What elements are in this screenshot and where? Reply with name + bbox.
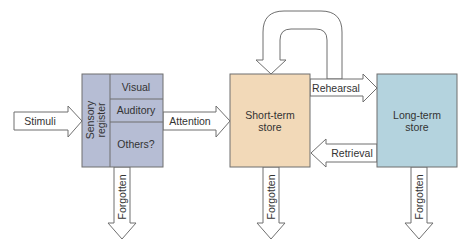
- retrieval-label: Retrieval: [331, 147, 372, 159]
- attention-label: Attention: [169, 115, 211, 127]
- rehearsal-arrow: Rehearsal: [310, 74, 377, 102]
- short-term-label-1: Short-term: [245, 109, 295, 121]
- memory-model-diagram: Stimuli Attention Rehearsal Retrieval Fo…: [0, 0, 473, 252]
- forgotten-arrow-sensory: Forgotten: [108, 167, 136, 239]
- short-term-label-2: store: [258, 121, 282, 133]
- sensory-register-box: Sensory register Visual Auditory Others?: [82, 74, 163, 167]
- long-term-label-2: store: [405, 121, 429, 133]
- forgotten-label-sensory: Forgotten: [116, 174, 128, 219]
- sensory-register-label-2: register: [95, 102, 107, 138]
- sensory-row-visual: Visual: [122, 81, 150, 93]
- stimuli-label: Stimuli: [24, 115, 56, 127]
- long-term-label-1: Long-term: [393, 109, 441, 121]
- short-term-store-box: Short-term store: [230, 74, 310, 167]
- forgotten-label-short-term: Forgotten: [265, 174, 277, 219]
- attention-arrow: Attention: [163, 106, 230, 137]
- long-term-store-box: Long-term store: [377, 74, 457, 167]
- forgotten-label-long-term: Forgotten: [413, 174, 425, 219]
- rehearsal-loop-arrow: [256, 11, 342, 79]
- forgotten-arrow-short-term: Forgotten: [257, 167, 285, 239]
- sensory-row-auditory: Auditory: [117, 104, 156, 116]
- forgotten-arrow-long-term: Forgotten: [405, 167, 433, 239]
- sensory-row-others: Others?: [117, 138, 155, 150]
- retrieval-arrow: Retrieval: [311, 139, 377, 167]
- stimuli-arrow: Stimuli: [14, 106, 82, 137]
- rehearsal-label: Rehearsal: [312, 82, 360, 94]
